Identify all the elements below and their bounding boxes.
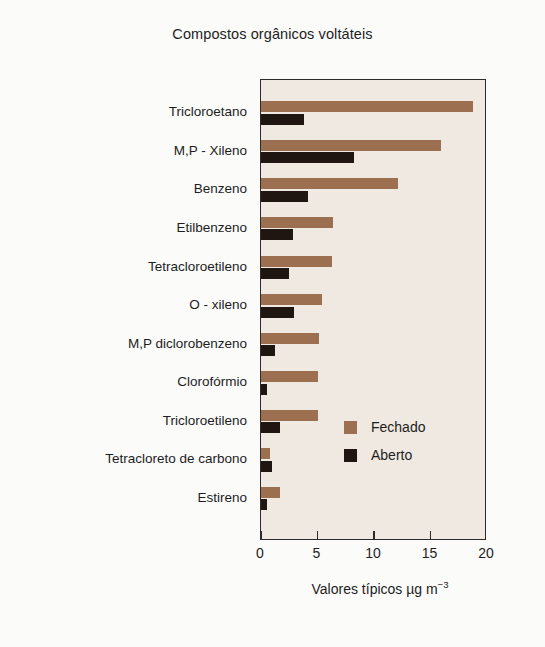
bar-fechado: [261, 256, 332, 267]
bar-group: [261, 140, 485, 179]
legend-item: Fechado: [344, 413, 425, 441]
x-axis-title-text: Valores típicos µg m: [312, 581, 438, 597]
y-tick-label: Tricloroetileno: [0, 414, 253, 428]
y-tick-label: M,P diclorobenzeno: [0, 337, 253, 351]
bar-group: [261, 178, 485, 217]
bars-container: [261, 80, 485, 539]
bar-fechado: [261, 101, 473, 112]
bar-group: [261, 256, 485, 295]
bar-group: [261, 294, 485, 333]
bar-aberto: [261, 384, 267, 395]
y-tick-label: M,P - Xileno: [0, 144, 253, 158]
x-tick-mark: [430, 531, 432, 540]
bar-aberto: [261, 499, 267, 510]
plot-area: [260, 79, 486, 540]
bar-fechado: [261, 448, 270, 459]
x-axis-title-exponent: −3: [438, 579, 449, 590]
bar-aberto: [261, 229, 293, 240]
legend: FechadoAberto: [344, 413, 425, 469]
legend-swatch-aberto: [344, 449, 357, 462]
bar-fechado: [261, 333, 319, 344]
x-tick-label: 0: [256, 545, 264, 561]
bar-fechado: [261, 487, 280, 498]
bar-fechado: [261, 140, 441, 151]
y-axis-tick-labels: TricloroetanoM,P - XilenoBenzenoEtilbenz…: [0, 79, 253, 540]
bar-aberto: [261, 345, 275, 356]
bar-fechado: [261, 294, 322, 305]
bar-group: [261, 101, 485, 140]
bar-aberto: [261, 191, 308, 202]
y-tick-label: Estireno: [0, 491, 253, 505]
legend-label: Aberto: [371, 447, 412, 463]
x-tick-label: 5: [313, 545, 321, 561]
x-tick-mark: [373, 531, 375, 540]
y-tick-label: Clorofórmio: [0, 375, 253, 389]
y-tick-label: Tetracloreto de carbono: [0, 452, 253, 466]
legend-label: Fechado: [371, 419, 425, 435]
chart-figure: Compostos orgânicos voltáteis Tricloroet…: [0, 0, 545, 647]
x-axis-title: Valores típicos µg m−3: [240, 581, 520, 597]
y-tick-label: O - xileno: [0, 298, 253, 312]
legend-item: Aberto: [344, 441, 425, 469]
x-axis-ticks: 05101520: [260, 540, 486, 570]
bar-aberto: [261, 268, 289, 279]
bar-fechado: [261, 410, 318, 421]
x-tick-label: 15: [422, 545, 438, 561]
y-tick-label: Benzeno: [0, 182, 253, 196]
x-tick-label: 20: [478, 545, 494, 561]
bar-fechado: [261, 178, 398, 189]
y-tick-label: Etilbenzeno: [0, 221, 253, 235]
bar-aberto: [261, 461, 272, 472]
bar-group: [261, 371, 485, 410]
bar-group: [261, 217, 485, 256]
y-tick-label: Tricloroetano: [0, 105, 253, 119]
chart-title: Compostos orgânicos voltáteis: [0, 26, 545, 42]
bar-aberto: [261, 422, 280, 433]
bar-group: [261, 487, 485, 526]
bar-aberto: [261, 152, 354, 163]
y-tick-label: Tetracloroetileno: [0, 260, 253, 274]
bar-aberto: [261, 114, 304, 125]
bar-aberto: [261, 307, 294, 318]
bar-fechado: [261, 371, 318, 382]
bar-group: [261, 333, 485, 372]
x-tick-mark: [485, 531, 487, 540]
bar-fechado: [261, 217, 333, 228]
x-tick-mark: [317, 531, 319, 540]
legend-swatch-fechado: [344, 421, 357, 434]
x-tick-mark: [260, 531, 262, 540]
x-tick-label: 10: [365, 545, 381, 561]
